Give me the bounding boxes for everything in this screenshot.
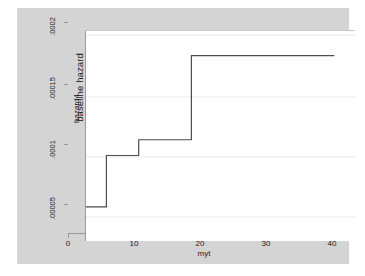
x-tick-mark-0 [68,234,69,238]
y-tick-mark-0001 [64,144,68,145]
plot-area [85,30,355,241]
y-tick-label-0002: .0002 [48,7,57,47]
chart-figure: baseline hazard hazard4 .0002 .00015 .00… [0,0,365,276]
y-axis-title-inner: hazard4 [72,64,81,154]
y-tick-label-00005: .00005 [48,189,57,229]
hazard-step-line [86,56,334,207]
y-tick-mark-00005 [64,204,68,205]
x-axis-title: myt [174,249,234,258]
y-tick-mark-0002 [64,22,68,23]
x-tick-label-0: 0 [56,239,80,248]
y-tick-label-00015: .00015 [48,69,57,109]
y-tick-label-0001: .0001 [48,130,57,170]
chart-canvas [86,31,356,242]
graph-region: baseline hazard hazard4 .0002 .00015 .00… [17,8,349,264]
gridlines [86,35,356,217]
y-tick-mark-00015 [64,84,68,85]
